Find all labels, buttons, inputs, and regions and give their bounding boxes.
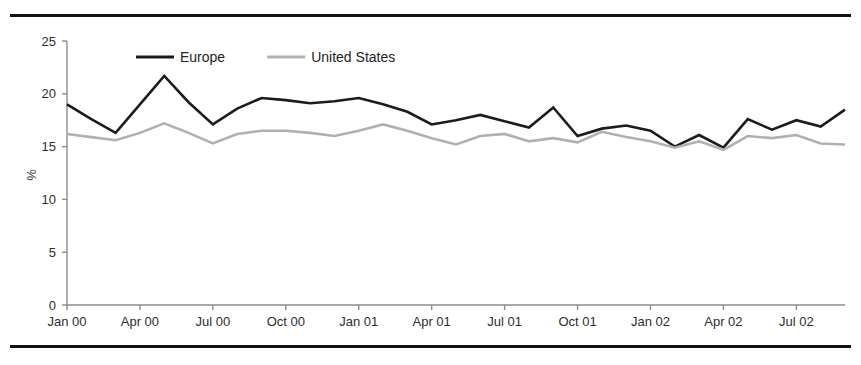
series-line-europe: [67, 76, 845, 148]
legend-label-united-states: United States: [311, 49, 395, 65]
chart-series: [67, 76, 845, 150]
x-axis-tick-label: Jan 01: [339, 314, 378, 329]
x-axis-tick-label: Apr 00: [121, 314, 159, 329]
x-axis-tick-label: Jan 02: [631, 314, 670, 329]
x-axis-tick-label: Apr 02: [704, 314, 742, 329]
chart-figure: 0510152025%Jan 00Apr 00Jul 00Oct 00Jan 0…: [0, 0, 861, 365]
y-axis-tick-label: 25: [42, 34, 56, 49]
legend-label-europe: Europe: [180, 49, 225, 65]
chart-axes: 0510152025%Jan 00Apr 00Jul 00Oct 00Jan 0…: [24, 34, 845, 330]
chart-legend: EuropeUnited States: [136, 49, 395, 65]
x-axis-tick-label: Jul 02: [779, 314, 814, 329]
y-axis-tick-label: 10: [42, 192, 56, 207]
y-axis-tick-label: 0: [49, 298, 56, 313]
line-chart-svg: 0510152025%Jan 00Apr 00Jul 00Oct 00Jan 0…: [0, 0, 861, 365]
x-axis-tick-label: Jan 00: [47, 314, 86, 329]
y-axis-title: %: [24, 169, 39, 181]
x-axis-tick-label: Jul 01: [487, 314, 522, 329]
y-axis-tick-label: 15: [42, 139, 56, 154]
x-axis-tick-label: Apr 01: [413, 314, 451, 329]
x-axis-tick-label: Oct 00: [267, 314, 305, 329]
x-axis-tick-label: Oct 01: [558, 314, 596, 329]
series-line-united-states: [67, 123, 845, 149]
x-axis-tick-label: Jul 00: [196, 314, 231, 329]
y-axis-tick-label: 5: [49, 245, 56, 260]
y-axis-tick-label: 20: [42, 86, 56, 101]
